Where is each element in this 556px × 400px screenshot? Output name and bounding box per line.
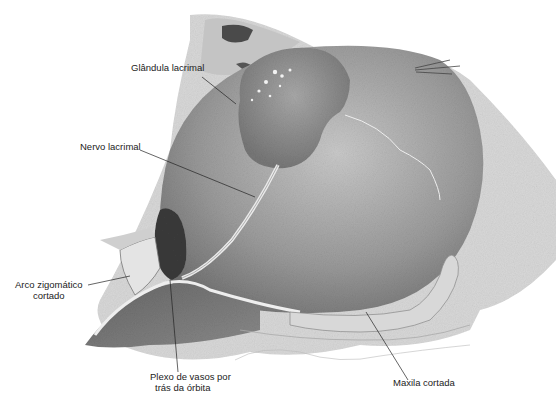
anatomy-illustration (0, 0, 556, 400)
label-glandula-lacrimal: Glândula lacrimal (131, 62, 204, 73)
label-maxila-cortada: Maxila cortada (393, 377, 455, 388)
label-nervo-lacrimal: Nervo lacrimal (80, 141, 141, 152)
label-arco-line2: cortado (15, 290, 83, 301)
label-plexo-vasos: Plexo de vasos por trás da órbita (150, 371, 231, 393)
label-arco-zigomatico: Arco zigomático cortado (15, 279, 83, 301)
label-plexo-line2: trás da órbita (150, 382, 231, 393)
label-plexo-line1: Plexo de vasos por (150, 371, 231, 382)
label-arco-line1: Arco zigomático (15, 279, 83, 290)
